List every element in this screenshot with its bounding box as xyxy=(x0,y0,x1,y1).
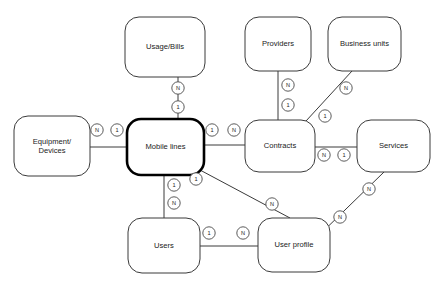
cardinality-marker: 1 xyxy=(190,173,202,185)
cardinality-value: 1 xyxy=(286,102,289,108)
cardinality-value: N xyxy=(322,152,326,158)
cardinality-value: 1 xyxy=(323,113,326,119)
cardinality-value: 1 xyxy=(194,176,197,182)
entity-users[interactable]: Users xyxy=(128,218,200,273)
entity-label: Contracts xyxy=(264,141,297,150)
cardinality-marker: 1 xyxy=(206,124,218,136)
cardinality-marker: N xyxy=(172,82,184,94)
relationship-line xyxy=(200,170,290,218)
cardinality-marker: 1 xyxy=(111,124,123,136)
cardinality-value: N xyxy=(172,200,176,206)
cardinality-value: N xyxy=(270,201,274,207)
entity-label: Devices xyxy=(38,146,65,155)
cardinality-value: N xyxy=(176,85,180,91)
cardinality-marker: N xyxy=(318,149,330,161)
entity-mobile_lines[interactable]: Mobile lines xyxy=(127,119,204,175)
entity-label: User profile xyxy=(275,240,314,249)
cardinality-marker: N xyxy=(168,197,180,209)
cardinality-marker: 1 xyxy=(172,101,184,113)
cardinality-value: 1 xyxy=(342,152,345,158)
entity-usage_bills[interactable]: Usage/Bills xyxy=(125,17,205,77)
cardinality-marker: 1 xyxy=(203,227,215,239)
cardinality-marker: N xyxy=(91,124,103,136)
cardinality-value: N xyxy=(232,127,236,133)
relationship-rel_mobile_userprofile xyxy=(200,170,290,218)
cardinality-marker: N xyxy=(363,183,375,195)
cardinality-marker: 1 xyxy=(282,99,294,111)
cardinality-marker: N xyxy=(340,82,352,94)
entity-providers[interactable]: Providers xyxy=(245,17,311,71)
entity-label: Services xyxy=(379,141,408,150)
entity-services[interactable]: Services xyxy=(357,120,430,172)
cardinality-value: N xyxy=(286,82,290,88)
entity-label: Equipment/ xyxy=(33,137,72,146)
cardinality-marker: 1 xyxy=(319,110,331,122)
entity-label: Usage/Bills xyxy=(146,42,184,51)
entity-user_profile[interactable]: User profile xyxy=(258,218,330,272)
entity-label: Providers xyxy=(262,39,294,48)
entity-label: Mobile lines xyxy=(145,142,185,151)
cardinality-marker: N xyxy=(228,124,240,136)
cardinality-marker: 1 xyxy=(168,179,180,191)
er-diagram-canvas: Usage/BillsProvidersBusiness unitsEquipm… xyxy=(0,0,439,286)
cardinality-value: N xyxy=(367,186,371,192)
entity-label: Business units xyxy=(340,39,389,48)
cardinality-marker: N xyxy=(282,79,294,91)
cardinality-value: 1 xyxy=(210,127,213,133)
entity-business_units[interactable]: Business units xyxy=(328,17,401,71)
cardinality-value: N xyxy=(241,230,245,236)
cardinality-value: 1 xyxy=(172,182,175,188)
cardinality-value: N xyxy=(344,85,348,91)
er-diagram: Usage/BillsProvidersBusiness unitsEquipm… xyxy=(0,0,439,286)
cardinality-value: N xyxy=(338,214,342,220)
cardinality-marker: N xyxy=(334,211,346,223)
entity-contracts[interactable]: Contracts xyxy=(245,120,315,172)
cardinality-value: N xyxy=(95,127,99,133)
cardinality-value: 1 xyxy=(207,230,210,236)
cardinality-marker: 1 xyxy=(338,149,350,161)
entity-label: Users xyxy=(154,241,174,250)
cardinality-value: 1 xyxy=(115,127,118,133)
cardinality-marker: N xyxy=(266,198,278,210)
cardinality-marker: N xyxy=(237,227,249,239)
cardinality-value: 1 xyxy=(176,104,179,110)
entity-equipment[interactable]: Equipment/Devices xyxy=(14,116,90,176)
